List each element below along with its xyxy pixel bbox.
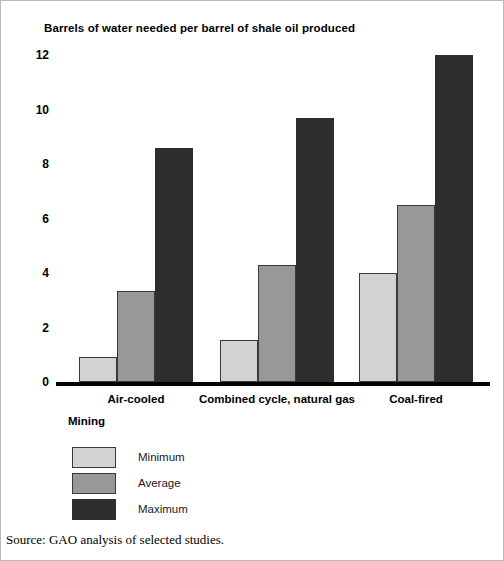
bar-group xyxy=(79,55,201,382)
legend-entries: MinimumAverageMaximum xyxy=(58,444,188,522)
bar xyxy=(155,148,193,382)
x-axis-line xyxy=(56,382,490,386)
legend-entry-label: Minimum xyxy=(138,451,185,463)
y-axis-tick-label: 10 xyxy=(36,104,49,116)
bar xyxy=(296,118,334,382)
bar xyxy=(79,357,117,382)
y-axis-tick-label: 6 xyxy=(42,213,49,225)
bar xyxy=(435,55,473,382)
bar xyxy=(258,265,296,382)
source-note: Source: GAO analysis of selected studies… xyxy=(6,532,224,548)
bar xyxy=(359,273,397,382)
bar-group xyxy=(220,55,342,382)
y-axis-tick-label: 2 xyxy=(42,322,49,334)
bar xyxy=(117,291,155,382)
chart-figure: Barrels of water needed per barrel of sh… xyxy=(0,0,504,561)
legend-entry[interactable]: Maximum xyxy=(58,496,188,522)
page-title: Barrels of water needed per barrel of sh… xyxy=(44,22,355,34)
legend-entry[interactable]: Minimum xyxy=(58,444,188,470)
legend-title: Mining xyxy=(68,415,188,427)
y-axis-tick-label: 12 xyxy=(36,49,49,61)
legend: Mining MinimumAverageMaximum xyxy=(58,415,188,522)
x-axis-category-label: Coal-fired xyxy=(389,393,443,405)
x-axis-category-label: Air-cooled xyxy=(108,393,165,405)
x-axis-category-label: Combined cycle, natural gas xyxy=(199,393,355,405)
legend-entry-label: Average xyxy=(138,477,181,489)
bar xyxy=(397,205,435,382)
y-axis-tick-label: 4 xyxy=(42,267,49,279)
bar-group xyxy=(359,55,481,382)
legend-entry[interactable]: Average xyxy=(58,470,188,496)
legend-swatch-icon xyxy=(72,473,116,494)
legend-entry-label: Maximum xyxy=(138,503,188,515)
plot-area: 024681012 Air-cooledCombined cycle, natu… xyxy=(58,55,490,382)
y-axis-tick-label: 0 xyxy=(42,376,49,388)
legend-swatch-icon xyxy=(72,499,116,520)
y-axis-tick-label: 8 xyxy=(42,158,49,170)
legend-swatch-icon xyxy=(72,447,116,468)
bar xyxy=(220,340,258,382)
